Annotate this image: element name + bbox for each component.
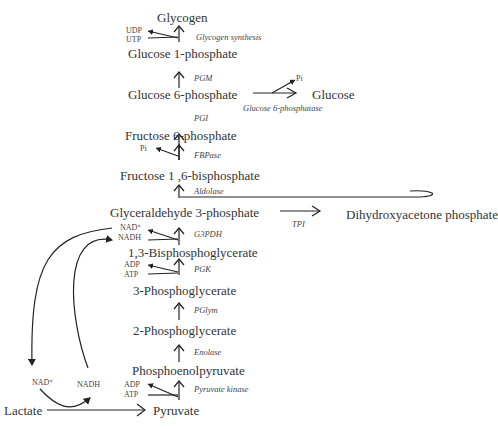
arrow-up-g3pdh	[174, 228, 184, 245]
cofactor-adp-pgk: ADP	[124, 260, 140, 269]
enzyme-enolase: Enolase	[194, 347, 221, 357]
metabolite-glucose-1-phosphate: Glucose 1-phosphate	[128, 46, 237, 62]
enzyme-pglym: PGlym	[194, 305, 218, 315]
cofactor-nad-plus-g3pdh: NAD⁺	[120, 223, 141, 232]
metabolite-glyceraldehyde-3-phosphate: Glyceraldehyde 3-phosphate	[110, 205, 259, 221]
metabolite-lactate: Lactate	[4, 403, 42, 419]
metabolite-glycogen: Glycogen	[157, 10, 208, 26]
metabolite-2-phosphoglycerate: 2-Phosphoglycerate	[133, 323, 236, 339]
metabolite-fructose-6-phosphate: Fructose 6-phosphate	[125, 128, 237, 144]
metabolite-glucose: Glucose	[312, 87, 355, 103]
metabolite-phosphoenolpyruvate: Phosphoenolpyruvate	[132, 363, 245, 379]
cofactor-pi-fbpase: Pi	[140, 144, 147, 153]
metabolite-1-3-bisphosphoglycerate: 1,3-Bisphosphoglycerate	[128, 245, 258, 261]
arrow-up-pyruvate-kinase	[174, 381, 184, 400]
cofactor-udp: UDP	[126, 26, 142, 35]
enzyme-pyruvate-kinase: Pyruvate kinase	[194, 384, 249, 394]
arrow-up-enolase	[174, 345, 184, 362]
enzyme-pgk: PGK	[194, 264, 211, 274]
metabolite-dihydroxyacetone-phosphate: Dihydroxyacetone phosphate	[346, 207, 498, 223]
enzyme-glycogen-synthesis: Glycogen synthesis	[196, 32, 261, 42]
cofactor-adp-pk: ADP	[124, 380, 140, 389]
enzyme-aldolase: Aldolase	[194, 186, 224, 196]
enzyme-pgm: PGM	[194, 73, 212, 83]
cofactor-nad-plus-ldh: NAD⁺	[32, 378, 53, 387]
arrow-up-pglym	[174, 303, 184, 320]
cofactor-atp-pgk: ATP	[124, 270, 138, 279]
arrow-up-aldolase	[174, 185, 184, 198]
enzyme-g3pdh: G3PDH	[194, 229, 222, 239]
cofactor-atp-pk: ATP	[124, 390, 138, 399]
enzyme-fbpase: FBPase	[194, 150, 221, 160]
metabolite-pyruvate: Pyruvate	[153, 403, 199, 419]
metabolite-glucose-6-phosphate: Glucose 6-phosphate	[128, 87, 237, 103]
arrow-up-pgm	[174, 72, 184, 88]
enzyme-pgi: PGI	[194, 113, 208, 123]
metabolite-fructose-1-6-bisphosphate: Fructose 1 ,6-bisphosphate	[120, 168, 260, 184]
cofactor-nadh-g3pdh: NADH	[118, 233, 141, 242]
cofactor-pi-glucose: Pi	[296, 74, 303, 83]
metabolite-3-phosphoglycerate: 3-Phosphoglycerate	[133, 283, 236, 299]
cofactor-utp: UTP	[126, 35, 141, 44]
enzyme-tpi: TPI	[292, 219, 305, 229]
enzyme-glucose-6-phosphatase: Glucose 6-phosphatase	[243, 103, 323, 113]
arrow-up-glycogen	[174, 26, 184, 42]
cofactor-nadh-ldh: NADH	[77, 380, 100, 389]
